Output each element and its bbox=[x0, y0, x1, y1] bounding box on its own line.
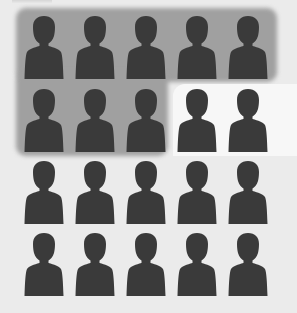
person-icon bbox=[177, 232, 217, 298]
person-icon bbox=[126, 160, 166, 226]
person-icon bbox=[24, 160, 64, 226]
person-icon bbox=[75, 88, 115, 154]
person-icon bbox=[126, 232, 166, 298]
icon-array bbox=[0, 0, 297, 313]
person-icon bbox=[228, 88, 268, 154]
person-icon bbox=[75, 232, 115, 298]
person-icon bbox=[126, 88, 166, 154]
person-icon bbox=[228, 15, 268, 81]
person-icon bbox=[24, 232, 64, 298]
person-icon bbox=[24, 88, 64, 154]
person-icon bbox=[228, 160, 268, 226]
person-icon bbox=[177, 15, 217, 81]
person-icon bbox=[126, 15, 166, 81]
person-icon bbox=[24, 15, 64, 81]
person-icon bbox=[228, 232, 268, 298]
person-icon bbox=[177, 88, 217, 154]
person-icon bbox=[75, 160, 115, 226]
person-icon bbox=[177, 160, 217, 226]
person-icon bbox=[75, 15, 115, 81]
